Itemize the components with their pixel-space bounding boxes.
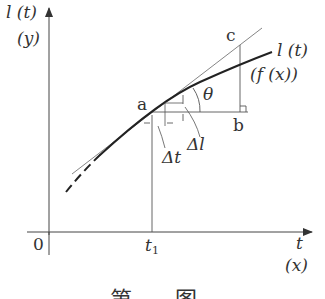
derivative-diagram: l (t) (y) a b c l (t) (f (x)) θ Δl Δt 0 … xyxy=(0,0,325,299)
curve-l-t xyxy=(100,52,272,155)
right-angle-marker xyxy=(240,106,246,112)
point-b-label: b xyxy=(233,115,244,135)
figure-caption: 第 图 xyxy=(0,286,325,299)
theta-label: θ xyxy=(203,84,213,104)
t1-subscript: 1 xyxy=(152,244,159,257)
point-c-label: c xyxy=(226,25,236,45)
curve-label-alt: (f (x)) xyxy=(250,64,298,84)
y-axis-label-alt: (y) xyxy=(17,28,40,48)
curve-dashed-extension xyxy=(66,153,102,192)
t1-label: t xyxy=(145,235,152,255)
origin-label: 0 xyxy=(33,234,44,254)
delta-t-leader xyxy=(158,126,165,148)
delta-t-label: Δt xyxy=(161,147,181,167)
x-axis-label: t xyxy=(296,233,303,253)
theta-arc xyxy=(193,88,200,112)
delta-l-label: Δl xyxy=(186,134,205,154)
y-axis-label: l (t) xyxy=(6,2,37,22)
curve-label: l (t) xyxy=(277,40,308,60)
x-axis-label-alt: (x) xyxy=(285,255,308,275)
delta-l-leader xyxy=(185,107,200,137)
point-a-label: a xyxy=(137,94,147,114)
